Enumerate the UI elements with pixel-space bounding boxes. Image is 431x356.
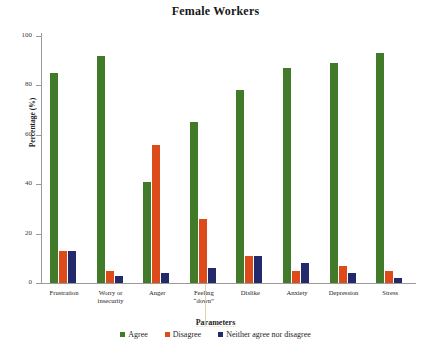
bar <box>59 251 67 283</box>
y-axis-tick-label: 0 <box>8 279 32 286</box>
bar <box>385 271 393 283</box>
x-axis-category-label: Depression <box>319 289 369 297</box>
y-axis-tick <box>36 36 41 37</box>
scan-artifact-horizontal <box>196 326 236 327</box>
bar <box>115 276 123 283</box>
y-axis-tick-label: 40 <box>8 180 32 187</box>
bar <box>292 271 300 283</box>
bar <box>190 122 198 283</box>
bar <box>394 278 402 283</box>
bar-group <box>236 36 263 283</box>
chart-container: Female Workers 020406080100 Percentage (… <box>0 0 431 356</box>
legend-swatch-icon <box>165 332 170 337</box>
x-axis-category-label: Frustration <box>39 289 89 297</box>
chart-title: Female Workers <box>0 4 431 19</box>
bar-group <box>330 36 357 283</box>
legend-label: Disagree <box>173 330 201 339</box>
legend-label: Neither agree nor disagree <box>226 330 311 339</box>
bar <box>68 251 76 283</box>
y-axis-tick-label: 20 <box>8 230 32 237</box>
bar <box>245 256 253 283</box>
bar <box>330 63 338 283</box>
bar-group <box>190 36 217 283</box>
bar-group <box>97 36 124 283</box>
x-axis-category-label: Dislike <box>225 289 275 297</box>
legend-swatch-icon <box>120 332 125 337</box>
scan-artifact-vertical <box>205 284 206 326</box>
bar <box>143 182 151 283</box>
bar-group <box>283 36 310 283</box>
y-axis-tick <box>36 184 41 185</box>
legend-item[interactable]: Disagree <box>165 330 201 339</box>
y-axis-tick-label: 100 <box>8 32 32 39</box>
legend-swatch-icon <box>218 332 223 337</box>
legend-label: Agree <box>128 330 148 339</box>
x-axis-category-label: Anger <box>132 289 182 297</box>
x-axis-category-label: Anxiety <box>272 289 322 297</box>
bar-group <box>50 36 77 283</box>
bar <box>254 256 262 283</box>
x-axis-line <box>41 283 416 284</box>
bar <box>236 90 244 283</box>
bar-group <box>143 36 170 283</box>
x-axis-category-label: Feeling “down” <box>179 289 229 306</box>
y-axis-tick <box>36 135 41 136</box>
legend-item[interactable]: Neither agree nor disagree <box>218 330 311 339</box>
bar <box>339 266 347 283</box>
bar <box>97 56 105 283</box>
y-axis-tick <box>36 234 41 235</box>
bar <box>301 263 309 283</box>
bar <box>50 73 58 283</box>
bar <box>283 68 291 283</box>
bar <box>348 273 356 283</box>
y-axis-title: Percentage (%) <box>28 68 37 178</box>
bar <box>376 53 384 283</box>
bar <box>199 219 207 283</box>
y-axis-tick <box>36 283 41 284</box>
bar <box>208 268 216 283</box>
plot-area <box>42 36 420 283</box>
bar-group <box>376 36 403 283</box>
bar <box>152 145 160 283</box>
legend-item[interactable]: Agree <box>120 330 148 339</box>
x-axis-category-label: Worry or insecurity <box>86 289 136 306</box>
x-axis-category-label: Stress <box>365 289 415 297</box>
chart-legend: AgreeDisagreeNeither agree nor disagree <box>0 330 431 339</box>
bar <box>106 271 114 283</box>
y-axis-tick <box>36 85 41 86</box>
bar <box>161 273 169 283</box>
